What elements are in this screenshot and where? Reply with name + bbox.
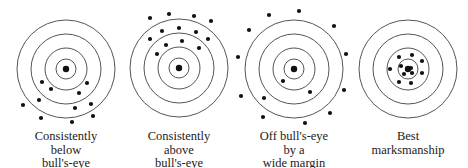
shot-dot bbox=[209, 19, 213, 23]
shot-dot bbox=[420, 59, 424, 63]
shot-dot bbox=[409, 66, 413, 70]
target-0 bbox=[17, 20, 115, 124]
shot-dot bbox=[247, 28, 251, 32]
shot-dot bbox=[409, 81, 413, 85]
caption-line: bull's-eye bbox=[11, 157, 121, 168]
shot-dot bbox=[206, 37, 210, 41]
shot-dot bbox=[399, 64, 403, 68]
shot-dot bbox=[155, 52, 159, 56]
shot-dot bbox=[281, 79, 285, 83]
bullseye bbox=[291, 66, 297, 72]
caption-best: Best marksmanship bbox=[353, 130, 463, 157]
shot-dot bbox=[239, 94, 243, 98]
target-2 bbox=[236, 9, 348, 125]
shot-dot bbox=[303, 121, 307, 125]
bullseye bbox=[176, 65, 182, 71]
caption-below: Consistently below bull's-eye bbox=[11, 130, 121, 168]
shot-dot bbox=[160, 29, 164, 33]
bullseye bbox=[63, 66, 69, 72]
shot-dot bbox=[410, 71, 414, 75]
shot-dot bbox=[148, 16, 152, 20]
shot-dot bbox=[180, 39, 184, 43]
caption-above: Consistently above bull's-eye bbox=[124, 130, 234, 168]
shot-dot bbox=[91, 114, 95, 118]
shot-dot bbox=[308, 90, 312, 94]
shot-dot bbox=[197, 46, 201, 50]
shot-dot bbox=[177, 26, 181, 30]
shot-dot bbox=[397, 55, 401, 59]
shot-dot bbox=[397, 80, 401, 84]
shot-dot bbox=[342, 88, 346, 92]
caption-line: Off bull's-eye bbox=[239, 130, 349, 144]
shot-dot bbox=[70, 120, 74, 124]
shot-dot bbox=[267, 13, 271, 17]
caption-line: by a bbox=[239, 144, 349, 158]
shot-dot bbox=[262, 96, 266, 100]
shot-dot bbox=[261, 115, 265, 119]
caption-line: below bbox=[11, 144, 121, 158]
caption-line: above bbox=[124, 144, 234, 158]
shot-dot bbox=[39, 116, 43, 120]
shot-dot bbox=[21, 103, 25, 107]
shot-dot bbox=[37, 98, 41, 102]
caption-wide-margin: Off bull's-eye by a wide margin bbox=[239, 130, 349, 168]
target-3 bbox=[359, 20, 457, 118]
target-1 bbox=[130, 12, 228, 117]
caption-line: Best bbox=[353, 130, 463, 144]
shot-dot bbox=[332, 24, 336, 28]
shot-dot bbox=[77, 91, 81, 95]
shot-dot bbox=[236, 55, 240, 59]
shot-dot bbox=[148, 37, 152, 41]
shot-dot bbox=[164, 43, 168, 47]
shot-dot bbox=[402, 72, 406, 76]
shot-dot bbox=[85, 81, 89, 85]
caption-line: wide margin bbox=[239, 157, 349, 168]
shot-dot bbox=[344, 52, 348, 56]
caption-line: marksmanship bbox=[353, 144, 463, 158]
shot-dot bbox=[40, 80, 44, 84]
shot-dot bbox=[73, 106, 77, 110]
shot-dot bbox=[410, 53, 414, 57]
shot-dot bbox=[89, 102, 93, 106]
shot-dot bbox=[388, 67, 392, 71]
caption-line: Consistently bbox=[124, 130, 234, 144]
shot-dot bbox=[420, 71, 424, 75]
shot-dot bbox=[297, 9, 301, 13]
shot-dot bbox=[194, 30, 198, 34]
shot-dot bbox=[328, 111, 332, 115]
shot-dot bbox=[49, 87, 53, 91]
caption-line: Consistently bbox=[11, 130, 121, 144]
shot-dot bbox=[192, 14, 196, 18]
caption-line: bull's-eye bbox=[124, 157, 234, 168]
shot-dot bbox=[167, 12, 171, 16]
